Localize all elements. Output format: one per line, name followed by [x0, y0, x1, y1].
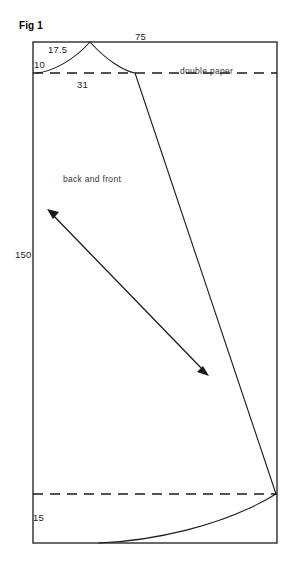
pattern-frame-rectangle — [33, 42, 277, 543]
arrow-head-lower-right-icon — [197, 366, 209, 376]
note-label-back-and-front: back and front — [63, 174, 121, 184]
pattern-drawing — [0, 0, 293, 570]
dimension-label-neck-depth: 10 — [34, 59, 45, 70]
grain-direction-arrow — [47, 209, 209, 376]
note-label-double-paper: double paper — [180, 66, 233, 76]
arrow-shaft — [50, 212, 206, 373]
dimension-label-neck-width: 31 — [77, 79, 88, 90]
dimension-label-top-width: 75 — [135, 31, 146, 42]
dimension-label-body-length: 150 — [15, 249, 31, 260]
dimension-label-shoulder-slope: 17.5 — [48, 44, 67, 55]
dimension-label-hem-allowance: 15 — [33, 512, 44, 523]
hem-curve — [99, 494, 276, 543]
side-seam-diagonal-line — [135, 73, 276, 494]
figure-canvas: Fig 1 75 17.5 10 31 150 15 double paper … — [0, 0, 293, 570]
arrow-head-upper-left-icon — [47, 209, 59, 219]
